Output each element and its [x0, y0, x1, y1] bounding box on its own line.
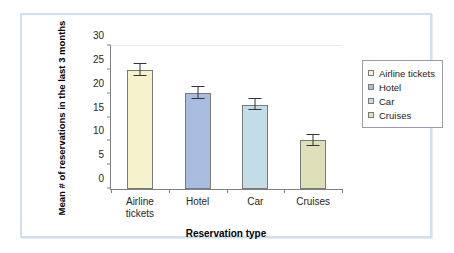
error-bar-cap-lower: [133, 75, 146, 76]
y-axis-tick-label: 15: [93, 101, 111, 112]
legend-item[interactable]: Car: [368, 94, 435, 108]
y-axis-tick-label: 25: [93, 53, 111, 64]
y-axis-title: Mean # of reservations in the last 3 mon…: [47, 43, 77, 193]
y-axis-tick-label: 30: [93, 30, 111, 41]
error-bar-cap-lower: [191, 98, 204, 99]
y-axis-tick-label: 5: [98, 149, 111, 160]
x-axis-tick-mark: [169, 189, 170, 193]
error-bar-cap-upper: [307, 134, 320, 135]
error-bar-cap-upper: [133, 63, 146, 64]
bar[interactable]: [242, 105, 268, 189]
x-axis-category-label: Cruises: [278, 196, 348, 208]
bar-group: Hotel: [169, 46, 227, 189]
x-axis-title-text: Reservation type: [186, 228, 267, 239]
legend-item[interactable]: Airline tickets: [368, 66, 435, 80]
bar-group: Airlinetickets: [111, 46, 169, 189]
y-axis-title-text: Mean # of reservations in the last 3 mon…: [56, 21, 68, 216]
error-bar-cap-lower: [307, 145, 320, 146]
x-axis-tick-mark: [342, 189, 343, 193]
error-bar-cap-upper: [249, 98, 262, 99]
legend-swatch-icon: [368, 70, 374, 76]
chart-frame: Mean # of reservations in the last 3 mon…: [20, 13, 432, 238]
bar[interactable]: [300, 140, 326, 189]
error-bar-cap-lower: [249, 109, 262, 110]
y-axis-tick-label: 0: [98, 173, 111, 184]
error-bar-cap-upper: [191, 86, 204, 87]
x-axis-title: Reservation type: [110, 228, 342, 239]
x-axis-tick-mark: [111, 189, 112, 193]
legend-swatch-icon: [368, 98, 374, 104]
plot-area: 051015202530AirlineticketsHotelCarCruise…: [110, 45, 342, 190]
bar[interactable]: [127, 70, 153, 189]
legend-swatch-icon: [368, 84, 374, 90]
legend-swatch-icon: [368, 112, 374, 118]
legend-item-label: Car: [379, 96, 394, 107]
legend-item-label: Hotel: [379, 82, 401, 93]
legend-item-label: Airline tickets: [379, 68, 435, 79]
chart-legend: Airline ticketsHotelCarCruises: [362, 60, 443, 128]
bar-group: Car: [227, 46, 285, 189]
x-axis-tick-mark: [284, 189, 285, 193]
legend-item[interactable]: Hotel: [368, 80, 435, 94]
legend-item[interactable]: Cruises: [368, 108, 435, 122]
x-axis-tick-mark: [227, 189, 228, 193]
x-axis-category-label-line: Cruises: [278, 196, 348, 208]
y-axis-tick-label: 10: [93, 125, 111, 136]
y-axis-tick-label: 20: [93, 77, 111, 88]
x-axis-category-label-line: tickets: [105, 208, 175, 220]
bar[interactable]: [185, 93, 211, 189]
legend-item-label: Cruises: [379, 110, 411, 121]
bar-group: Cruises: [284, 46, 342, 189]
